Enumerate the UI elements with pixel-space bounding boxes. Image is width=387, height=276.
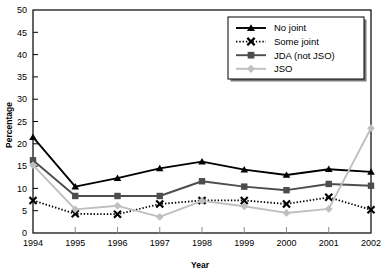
legend-label-3: JDA (not JSO)	[274, 50, 335, 61]
x-tick-label: 1994	[23, 238, 43, 248]
marker-square	[157, 193, 163, 199]
y-tick-label: 40	[17, 50, 27, 60]
y-tick-label: 35	[17, 72, 27, 82]
x-tick-label: 2001	[319, 238, 339, 248]
legend-label-2: Some joint	[274, 36, 319, 47]
y-tick-label: 30	[17, 94, 27, 104]
legend-label-4: JSO	[274, 63, 292, 74]
x-tick-label: 1997	[150, 238, 170, 248]
x-tick-label: 1999	[234, 238, 254, 248]
y-tick-label: 20	[17, 139, 27, 149]
marker-square	[114, 193, 120, 199]
y-tick-label: 25	[17, 117, 27, 127]
chart-container: 05101520253035404550 1994199519961997199…	[0, 0, 387, 276]
chart-legend: No jointSome jointJDA (not JSO)JSO	[228, 17, 367, 82]
marker-square	[283, 187, 289, 193]
y-tick-label: 5	[22, 206, 27, 216]
marker-square	[72, 193, 78, 199]
x-tick-label: 1996	[107, 238, 127, 248]
y-tick-label: 10	[17, 184, 27, 194]
marker-square	[326, 181, 332, 187]
x-axis-title: Year	[191, 260, 210, 270]
marker-square	[248, 52, 255, 59]
x-tick-label: 1998	[192, 238, 212, 248]
x-tick-label: 1995	[65, 238, 85, 248]
marker-square	[368, 183, 374, 189]
line-chart: 05101520253035404550 1994199519961997199…	[0, 0, 387, 276]
y-tick-label: 0	[22, 228, 27, 238]
y-axis-title: Percentage	[4, 102, 14, 148]
marker-square	[241, 183, 247, 189]
y-tick-label: 15	[17, 161, 27, 171]
legend-label-1: No joint	[274, 22, 307, 33]
y-tick-label: 50	[17, 5, 27, 15]
x-tick-label: 2000	[276, 238, 296, 248]
y-tick-label: 45	[17, 28, 27, 38]
x-tick-label: 2002	[361, 238, 381, 248]
marker-square	[199, 178, 205, 184]
